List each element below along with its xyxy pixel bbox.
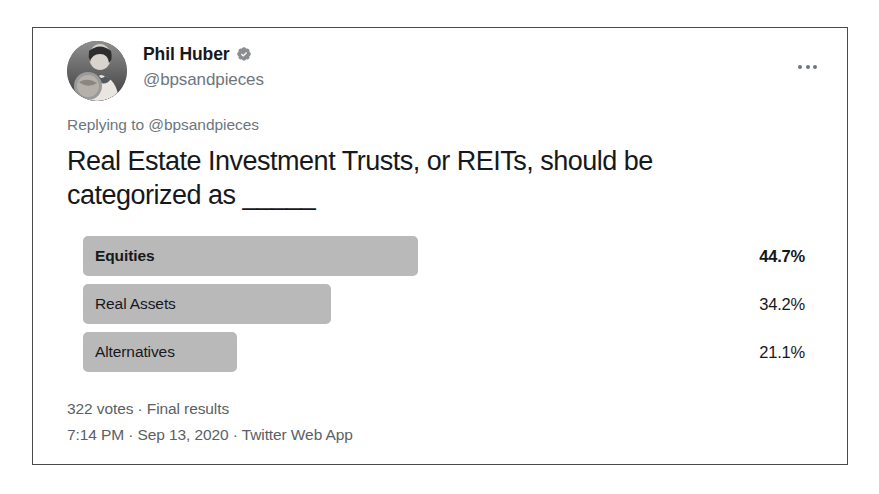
poll-option-percent: 34.2% [759,284,805,324]
avatar[interactable] [67,41,127,101]
avatar-image [67,41,127,101]
author-identity: Phil Huber @bpsandpieces [143,43,264,92]
tweet-timestamp-meta: 7:14 PM · Sep 13, 2020 · Twitter Web App [67,426,353,444]
poll-option-label: Equities [95,236,155,276]
more-dot [806,65,810,69]
author-name-line: Phil Huber [143,43,264,65]
poll-option-percent: 44.7% [759,236,805,276]
more-dot [798,65,802,69]
more-options-icon[interactable] [792,59,823,75]
poll-row[interactable]: Equities 44.7% [83,236,805,276]
poll-option-percent: 21.1% [759,332,805,372]
author-handle[interactable]: @bpsandpieces [143,68,264,92]
tweet-header: Phil Huber @bpsandpieces [67,41,829,105]
author-display-name[interactable]: Phil Huber [143,43,230,65]
poll: Equities 44.7% Real Assets 34.2% Alterna… [83,236,805,380]
poll-row[interactable]: Real Assets 34.2% [83,284,805,324]
poll-option-label: Alternatives [95,332,175,372]
tweet-body-text: Real Estate Investment Trusts, or REITs,… [67,144,747,212]
verified-badge-icon [236,46,252,62]
screenshot-root: Phil Huber @bpsandpieces Replying to @bp… [0,0,879,494]
poll-option-label: Real Assets [95,284,176,324]
poll-row[interactable]: Alternatives 21.1% [83,332,805,372]
more-dot [813,65,817,69]
tweet-card: Phil Huber @bpsandpieces Replying to @bp… [32,27,848,465]
replying-to-text: Replying to @bpsandpieces [67,116,259,134]
poll-results-meta: 322 votes · Final results [67,400,229,418]
